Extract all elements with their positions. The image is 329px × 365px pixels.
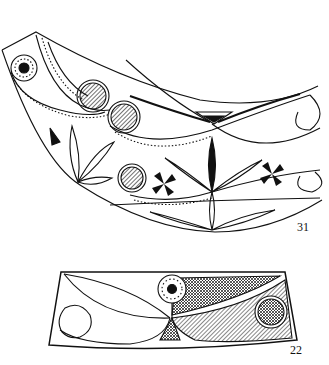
figure-31: 31: [0, 0, 329, 240]
panel-ornament-drawing: [0, 240, 329, 365]
figure-number: 22: [290, 343, 302, 358]
figure-number: 31: [297, 220, 309, 235]
horn-ornament-drawing: [0, 0, 329, 240]
figure-22: 22: [0, 240, 329, 365]
